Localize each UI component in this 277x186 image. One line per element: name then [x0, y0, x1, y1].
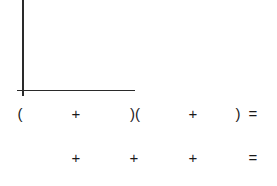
- area-model-horizontal-axis: [17, 90, 135, 92]
- sum-plus-sign-3: +: [189, 150, 198, 166]
- equals-sign-1: =: [249, 106, 258, 122]
- plus-sign-2: +: [189, 106, 198, 122]
- sum-plus-sign-1: +: [72, 150, 81, 166]
- close-open-paren: )(: [130, 106, 140, 122]
- plus-sign-1: +: [72, 106, 81, 122]
- sum-equals-sign: =: [249, 150, 258, 166]
- sum-plus-sign-2: +: [130, 150, 139, 166]
- open-paren-1: (: [18, 106, 23, 122]
- area-model-vertical-axis: [22, 0, 24, 96]
- close-paren-2: ): [236, 106, 241, 122]
